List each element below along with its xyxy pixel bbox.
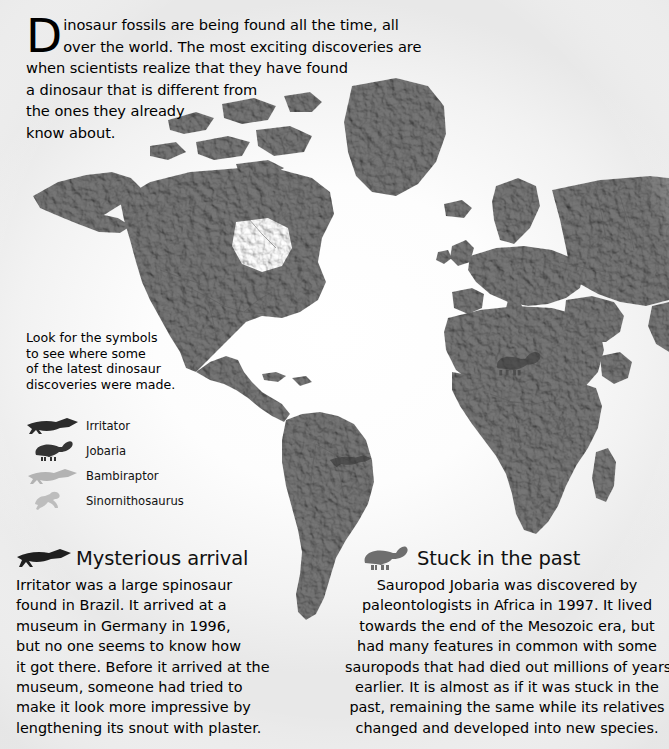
sinornithosaurus-silhouette-icon <box>26 490 80 512</box>
legend-label-sinornithosaurus: Sinornithosaurus <box>86 494 184 508</box>
map-hydrography <box>160 190 634 498</box>
article-line: make it look more impressive by <box>16 697 336 717</box>
article-line: museum, someone had tried to <box>16 677 336 697</box>
jobaria-silhouette-icon <box>26 440 80 462</box>
article-mysterious-arrival: Mysterious arrival Irritator was a large… <box>16 543 336 738</box>
intro-paragraph: D inosaur fossils are being found all th… <box>26 14 446 143</box>
article-line: Sauropod Jobaria was discovered by <box>345 575 669 595</box>
article-line: past, remaining the same while its relat… <box>345 697 669 717</box>
article-section: Mysterious arrival Irritator was a large… <box>0 543 669 749</box>
article-title: Stuck in the past <box>417 547 580 570</box>
map-marker-irritator <box>330 455 372 467</box>
bambiraptor-silhouette-icon <box>26 465 80 487</box>
article-line: lengthening its snout with plaster. <box>16 718 336 738</box>
article-line: Irritator was a large spinosaur <box>16 575 336 595</box>
article-line: museum in Germany in 1996, <box>16 616 336 636</box>
irritator-silhouette-icon <box>16 546 72 570</box>
intro-line-4: a dinosaur that is different from <box>26 79 446 101</box>
article-body: Sauropod Jobaria was discovered by paleo… <box>345 575 669 738</box>
legend-caption-line-1: Look for the symbols <box>26 330 216 346</box>
intro-line-6: know about. <box>26 122 446 144</box>
article-line: towards the end of the Mesozoic era, but <box>345 616 669 636</box>
legend-item-bambiraptor[interactable]: Bambiraptor <box>26 463 184 488</box>
jobaria-silhouette-icon <box>357 546 413 570</box>
legend-label-irritator: Irritator <box>86 419 130 433</box>
article-line: it got there. Before it arrived at the <box>16 657 336 677</box>
article-body: Irritator was a large spinosaur found in… <box>16 575 336 738</box>
legend-label-jobaria: Jobaria <box>86 444 126 458</box>
legend-item-jobaria[interactable]: Jobaria <box>26 438 184 463</box>
legend-label-bambiraptor: Bambiraptor <box>86 469 159 483</box>
intro-line-3: when scientists realize that they have f… <box>26 57 446 79</box>
legend-caption-line-4: discoveries were made. <box>26 377 216 393</box>
page-root: D inosaur fossils are being found all th… <box>0 0 669 749</box>
legend-caption: Look for the symbols to see where some o… <box>26 330 216 392</box>
intro-line-1: inosaur fossils are being found all the … <box>26 14 446 36</box>
article-line: sauropods that had died out millions of … <box>345 657 669 677</box>
legend-caption-line-2: to see where some <box>26 346 216 362</box>
legend-caption-line-3: of the latest dinosaur <box>26 361 216 377</box>
intro-line-2: over the world. The most exciting discov… <box>26 36 446 58</box>
article-line: earlier. It is almost as if it was stuck… <box>345 677 669 697</box>
intro-line-5: the ones they already <box>26 100 446 122</box>
article-title: Mysterious arrival <box>76 547 248 570</box>
map-legend: Irritator Jobaria Bambiraptor <box>26 413 184 513</box>
article-heading-row: Stuck in the past <box>345 543 669 573</box>
legend-item-irritator[interactable]: Irritator <box>26 413 184 438</box>
article-line: had many features in common with some <box>345 636 669 656</box>
legend-item-sinornithosaurus[interactable]: Sinornithosaurus <box>26 488 184 513</box>
article-line: but no one seems to know how <box>16 636 336 656</box>
irritator-silhouette-icon <box>26 415 80 437</box>
map-marker-jobaria <box>497 352 540 376</box>
article-heading-row: Mysterious arrival <box>16 543 336 573</box>
article-line: paleontologists in Africa in 1997. It li… <box>345 595 669 615</box>
intro-dropcap: D <box>26 16 62 56</box>
article-line: changed and developed into new species. <box>345 718 669 738</box>
article-line: found in Brazil. It arrived at a <box>16 595 336 615</box>
article-stuck-in-the-past: Stuck in the past Sauropod Jobaria was d… <box>345 543 669 738</box>
